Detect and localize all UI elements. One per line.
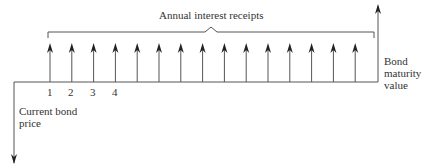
- period-3: 3: [90, 86, 96, 98]
- cash-flow-diagram: [0, 0, 426, 168]
- period-1: 1: [47, 86, 53, 98]
- interest-arrows: [47, 43, 358, 82]
- annual-interest-label: Annual interest receipts: [159, 9, 263, 21]
- period-4: 4: [112, 86, 118, 98]
- interest-bracket: [48, 27, 374, 38]
- period-2: 2: [68, 86, 74, 98]
- current-bond-price-label: Current bond price: [19, 105, 77, 129]
- bond-maturity-value-label: Bond maturity value: [384, 55, 421, 91]
